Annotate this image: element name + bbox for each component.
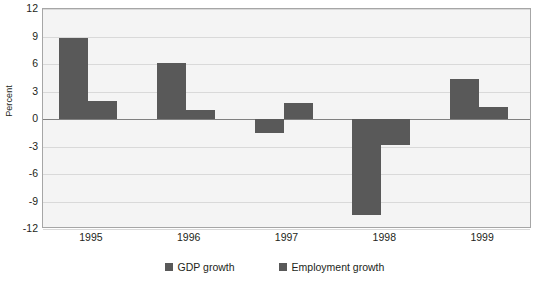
gridline	[43, 37, 530, 38]
y-axis-tick-label: 12	[4, 3, 38, 14]
bar	[157, 63, 186, 119]
bar	[284, 103, 313, 120]
bar	[186, 110, 215, 119]
zero-line	[43, 119, 530, 120]
x-axis-tick-label: 1998	[335, 232, 433, 243]
legend-swatch-icon	[165, 263, 173, 271]
bar-chart: Percent 129630-3-6-9-12 1995199619971998…	[0, 0, 549, 295]
gridline	[43, 9, 530, 10]
y-axis-tick-label: 0	[4, 113, 38, 124]
y-axis-tick-label: -6	[4, 168, 38, 179]
y-axis-tick-label: -12	[4, 223, 38, 234]
bar	[59, 38, 88, 119]
x-axis-tick-label: 1995	[42, 232, 140, 243]
gridline	[43, 174, 530, 175]
y-axis-tick-label: 3	[4, 86, 38, 97]
bar	[352, 119, 381, 215]
y-axis-tick-label: -9	[4, 196, 38, 207]
legend-item[interactable]: GDP growth	[165, 262, 235, 273]
y-axis-tick-label: -3	[4, 141, 38, 152]
gridline	[43, 147, 530, 148]
x-axis-tick-labels: 19951996199719981999	[42, 232, 531, 250]
plot-area	[42, 8, 531, 228]
bar	[479, 107, 508, 119]
bar	[88, 101, 117, 119]
legend-label: Employment growth	[292, 262, 385, 273]
y-axis-tick-label: 6	[4, 58, 38, 69]
y-axis-tick-labels: 129630-3-6-9-12	[0, 0, 38, 240]
legend-item[interactable]: Employment growth	[279, 262, 385, 273]
bar	[381, 119, 410, 145]
legend-swatch-icon	[279, 263, 287, 271]
gridline	[43, 229, 530, 230]
y-axis-tick-label: 9	[4, 31, 38, 42]
legend-label: GDP growth	[178, 262, 235, 273]
gridline	[43, 202, 530, 203]
x-axis-tick-label: 1996	[140, 232, 238, 243]
gridline	[43, 64, 530, 65]
chart-legend: GDP growthEmployment growth	[0, 262, 549, 273]
bar	[450, 79, 479, 119]
x-axis-tick-label: 1997	[238, 232, 336, 243]
x-axis-tick-label: 1999	[433, 232, 531, 243]
plot-inner	[43, 9, 530, 227]
bar	[255, 119, 284, 133]
